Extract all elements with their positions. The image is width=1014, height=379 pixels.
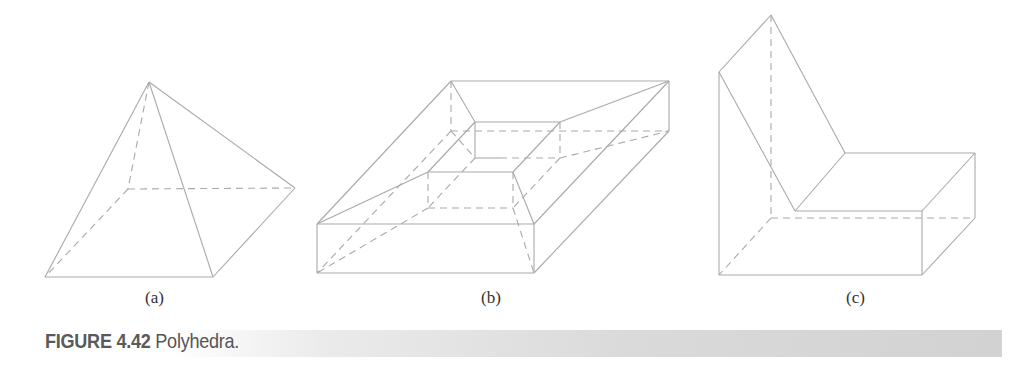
polyhedra-figure: [0, 0, 1014, 379]
panel-b-label: (b): [481, 288, 501, 308]
figure-caption: FIGURE 4.42 Polyhedra.: [45, 329, 239, 353]
panel-b-frame: [317, 81, 669, 273]
figure-number: FIGURE 4.42: [45, 329, 151, 352]
panel-a-label: (a): [145, 288, 164, 308]
panel-a-pyramid: [45, 82, 295, 277]
panel-c-l-prism: [719, 15, 975, 275]
panel-c-label: (c): [846, 288, 865, 308]
figure-title: Polyhedra.: [155, 329, 239, 352]
